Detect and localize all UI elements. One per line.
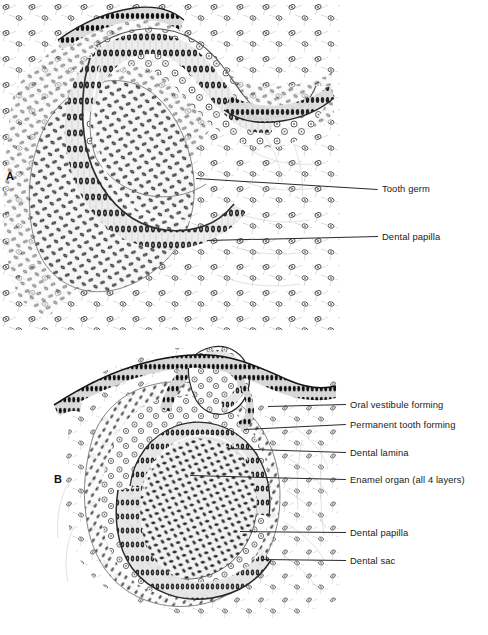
panel-b-artwork <box>40 330 360 635</box>
panel-letter-a: A <box>6 171 14 182</box>
label-permanent-tooth-forming: Permanent tooth forming <box>350 420 455 429</box>
panel-a-artwork <box>0 0 340 330</box>
label-dental-papilla-a: Dental papilla <box>382 232 440 241</box>
label-dental-papilla-b: Dental papilla <box>350 528 408 537</box>
label-dental-sac: Dental sac <box>350 556 395 565</box>
label-oral-vestibule-forming: Oral vestibule forming <box>350 400 443 409</box>
panel-letter-b: B <box>54 474 62 485</box>
panel-a-illustration <box>0 0 340 330</box>
histology-figure: A B Tooth germ Dental papilla Oral vesti… <box>0 0 488 635</box>
label-tooth-germ: Tooth germ <box>382 184 430 193</box>
label-enamel-organ: Enamel organ (all 4 layers) <box>350 475 465 484</box>
panel-b-illustration <box>40 330 360 635</box>
label-dental-lamina: Dental lamina <box>350 448 409 457</box>
